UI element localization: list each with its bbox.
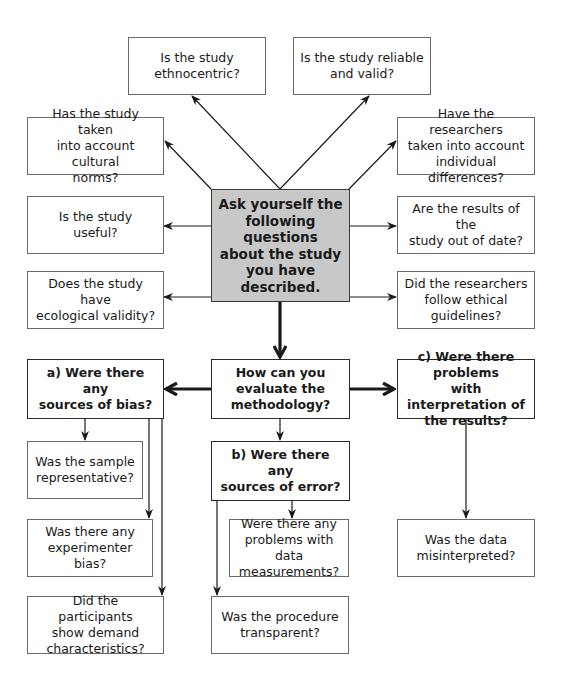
question-sample-representative: Was the sample representative? [27,441,143,499]
question-cultural-norms: Has the study taken into account cultura… [27,117,164,175]
question-label: Does the study have ecological validity? [34,276,157,324]
center-prompt-box: Ask yourself the following questions abo… [211,189,350,302]
methodology-label: How can you evaluate the methodology? [231,365,331,413]
question-procedure-transparent: Was the procedure transparent? [211,596,349,654]
branch-a-bias-box: a) Were there any sources of bias? [27,359,164,419]
question-ethnocentric: Is the study ethnocentric? [128,37,266,95]
branch-c-prefix: c) [418,349,431,364]
question-label: Has the study taken into account cultura… [34,106,157,186]
question-label: Was the procedure transparent? [221,609,339,641]
question-ethical-guidelines: Did the researchers follow ethical guide… [397,271,535,329]
branch-c-interpretation-box: c) Were there problems with interpretati… [397,359,535,419]
center-prompt-label: Ask yourself the following questions abo… [218,196,343,295]
question-label: Was the data misinterpreted? [417,532,516,564]
question-label: Have the researchers taken into account … [404,106,528,186]
question-label: Is the study useful? [59,209,132,241]
branch-b-error-box: b) Were there any sources of error? [211,441,350,501]
question-data-misinterpreted: Was the data misinterpreted? [397,519,535,577]
question-individual-differences: Have the researchers taken into account … [397,117,535,175]
branch-b-label: b) Were there any sources of error? [218,447,343,495]
branch-a-label: a) Were there any sources of bias? [34,365,157,413]
question-out-of-date: Are the results of the study out of date… [397,196,535,254]
question-label: Did the researchers follow ethical guide… [405,276,528,324]
question-label: Did the participants show demand charact… [34,593,157,657]
branch-a-prefix: a) [47,365,61,380]
question-label: Are the results of the study out of date… [404,201,528,249]
question-ecological-validity: Does the study have ecological validity? [27,271,164,329]
question-label: Were there any problems with data measur… [236,516,342,580]
branch-b-prefix: b) [232,447,247,462]
question-data-measurements: Were there any problems with data measur… [229,519,349,577]
connector-arrows [0,0,568,688]
question-experimenter-bias: Was there any experimenter bias? [27,519,153,577]
branch-c-label: c) Were there problems with interpretati… [404,349,528,429]
question-reliable-valid: Is the study reliable and valid? [293,37,431,95]
question-label: Was there any experimenter bias? [34,524,146,572]
question-label: Is the study reliable and valid? [300,50,424,82]
question-label: Is the study ethnocentric? [154,50,240,82]
question-demand-characteristics: Did the participants show demand charact… [27,596,164,654]
question-label: Was the sample representative? [35,454,135,486]
methodology-box: How can you evaluate the methodology? [211,359,350,419]
question-useful: Is the study useful? [27,196,164,254]
